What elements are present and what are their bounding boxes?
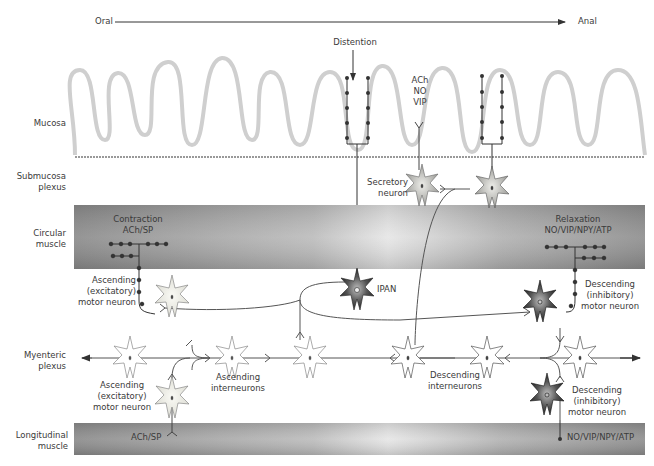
ascending-interneurons-label: Ascendinginterneurons [208,372,268,394]
descending-interneuron-1 [391,336,425,378]
secretory-neuron-label: Secretoryneuron [358,177,408,199]
submucosal-neuron-2 [475,166,509,208]
layer-mucosa: Mucosa [10,118,66,129]
secretory-mediators: ACh NO VIP [400,75,440,108]
descending-motor-circular-label: Descending(inhibitory)motor neuron [578,279,642,312]
layer-submucosa: Submucosaplexus [4,171,66,193]
oral-label: Oral [95,16,113,27]
descending-interneurons-label: Descendinginterneurons [425,370,485,392]
secretory-neuron [405,164,439,206]
ascending-motor-longitudinal-label: Ascending(excitatory)motor neuron [90,380,154,413]
layer-circular-muscle: Circularmuscle [4,228,66,250]
mucosa-villi [70,58,645,155]
ipan-label: IPAN [377,284,396,295]
layer-myenteric-plexus: Myentericplexus [4,350,66,372]
layer-longitudinal-muscle: Longitudinalmuscle [2,430,68,452]
contraction-label: ContractionACh/SP [108,214,168,236]
anal-label: Anal [578,16,597,27]
ascending-motor-circular-label: Ascending(excitatory)motor neuron [72,275,136,308]
distention-label: Distention [325,37,385,48]
descending-motor-neuron-circular [523,280,557,322]
longitudinal-inhibitory-transmitters: NO/VIP/NPY/ATP [567,432,634,443]
longitudinal-excitatory-transmitters: ACh/SP [131,432,161,443]
descending-interneuron-3 [563,336,597,378]
descending-motor-neuron-longitudinal [530,373,564,415]
myenteric-neuron-1 [113,336,147,378]
ascending-interneuron-2 [293,336,327,378]
descending-motor-longitudinal-label: Descending(inhibitory)motor neuron [565,385,629,418]
ascending-motor-neuron-circular [155,275,189,317]
relaxation-label: RelaxationNO/VIP/NPY/ATP [540,214,616,236]
ipan-neuron [340,268,374,310]
